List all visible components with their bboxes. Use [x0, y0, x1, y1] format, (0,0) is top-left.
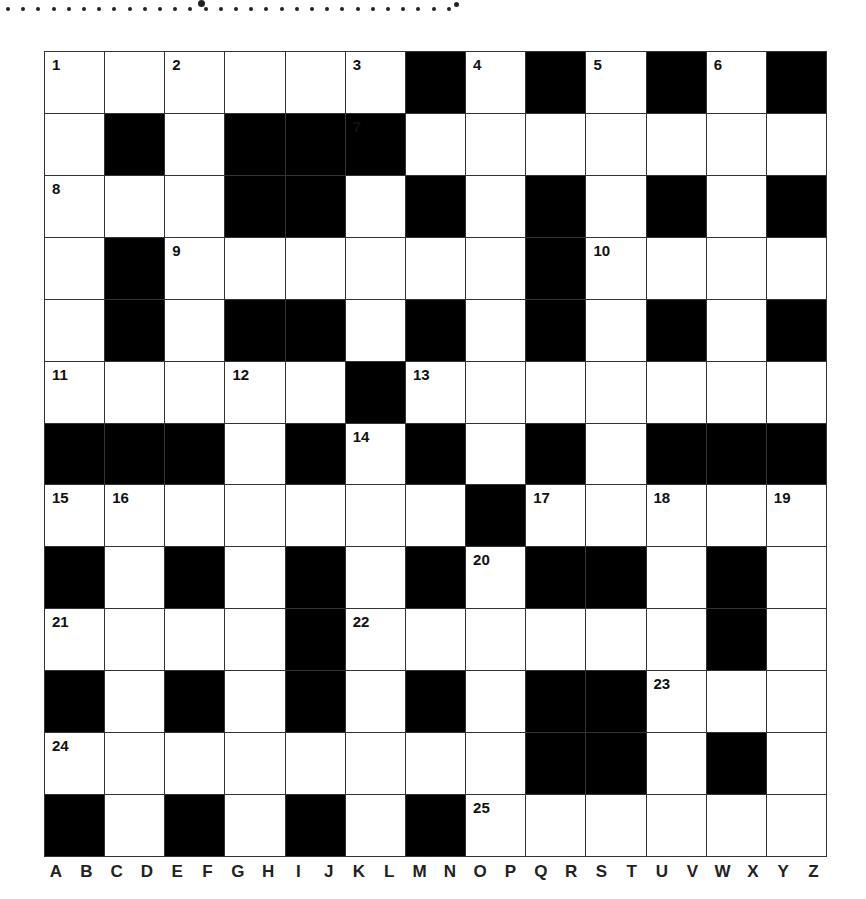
- alphabet-letter[interactable]: J: [319, 862, 339, 882]
- answer-cell[interactable]: 15: [45, 485, 104, 546]
- alphabet-letter[interactable]: M: [410, 862, 430, 882]
- answer-cell[interactable]: [105, 362, 164, 423]
- answer-cell[interactable]: [406, 609, 465, 670]
- answer-cell[interactable]: 8: [45, 176, 104, 237]
- answer-cell[interactable]: [767, 362, 826, 423]
- answer-cell[interactable]: [225, 238, 284, 299]
- answer-cell[interactable]: [526, 609, 585, 670]
- answer-cell[interactable]: [707, 114, 766, 175]
- answer-cell[interactable]: 10: [586, 238, 645, 299]
- answer-cell[interactable]: [165, 176, 224, 237]
- alphabet-letter[interactable]: X: [743, 862, 763, 882]
- answer-cell[interactable]: 1: [45, 52, 104, 113]
- answer-cell[interactable]: [707, 300, 766, 361]
- answer-cell[interactable]: 18: [647, 485, 706, 546]
- answer-cell[interactable]: [286, 362, 345, 423]
- answer-cell[interactable]: [466, 424, 525, 485]
- answer-cell[interactable]: [767, 795, 826, 856]
- answer-cell[interactable]: [165, 733, 224, 794]
- answer-cell[interactable]: [647, 795, 706, 856]
- answer-cell[interactable]: [225, 424, 284, 485]
- answer-cell[interactable]: [466, 733, 525, 794]
- alphabet-letter[interactable]: I: [288, 862, 308, 882]
- answer-cell[interactable]: [707, 238, 766, 299]
- answer-cell[interactable]: [767, 609, 826, 670]
- answer-cell[interactable]: [466, 362, 525, 423]
- answer-cell[interactable]: [346, 547, 405, 608]
- answer-cell[interactable]: [406, 114, 465, 175]
- alphabet-letter[interactable]: W: [713, 862, 733, 882]
- answer-cell[interactable]: [586, 114, 645, 175]
- answer-cell[interactable]: [406, 485, 465, 546]
- answer-cell[interactable]: [225, 485, 284, 546]
- answer-cell[interactable]: [346, 733, 405, 794]
- answer-cell[interactable]: 6: [707, 52, 766, 113]
- answer-cell[interactable]: 20: [466, 547, 525, 608]
- alphabet-letter[interactable]: E: [167, 862, 187, 882]
- alphabet-letter[interactable]: K: [349, 862, 369, 882]
- alphabet-letter[interactable]: Z: [804, 862, 824, 882]
- alphabet-letter[interactable]: U: [652, 862, 672, 882]
- answer-cell[interactable]: [165, 485, 224, 546]
- answer-cell[interactable]: [647, 238, 706, 299]
- answer-cell[interactable]: 21: [45, 609, 104, 670]
- answer-cell[interactable]: [105, 176, 164, 237]
- answer-cell[interactable]: [105, 733, 164, 794]
- answer-cell[interactable]: [586, 609, 645, 670]
- answer-cell[interactable]: [767, 733, 826, 794]
- answer-cell[interactable]: 5: [586, 52, 645, 113]
- alphabet-letter[interactable]: C: [107, 862, 127, 882]
- alphabet-letter[interactable]: R: [561, 862, 581, 882]
- answer-cell[interactable]: [406, 733, 465, 794]
- answer-cell[interactable]: [406, 238, 465, 299]
- answer-cell[interactable]: [586, 795, 645, 856]
- answer-cell[interactable]: [225, 609, 284, 670]
- answer-cell[interactable]: [586, 485, 645, 546]
- answer-cell[interactable]: [586, 362, 645, 423]
- answer-cell[interactable]: [286, 52, 345, 113]
- answer-cell[interactable]: [105, 795, 164, 856]
- answer-cell[interactable]: 9: [165, 238, 224, 299]
- answer-cell[interactable]: [707, 485, 766, 546]
- alphabet-letter[interactable]: H: [258, 862, 278, 882]
- answer-cell[interactable]: [767, 547, 826, 608]
- answer-cell[interactable]: [165, 609, 224, 670]
- answer-cell[interactable]: [466, 671, 525, 732]
- answer-cell[interactable]: [346, 485, 405, 546]
- answer-cell[interactable]: [225, 795, 284, 856]
- answer-cell[interactable]: [586, 300, 645, 361]
- answer-cell[interactable]: [466, 300, 525, 361]
- alphabet-letter[interactable]: Q: [531, 862, 551, 882]
- answer-cell[interactable]: 17: [526, 485, 585, 546]
- answer-cell[interactable]: [225, 547, 284, 608]
- answer-cell[interactable]: [526, 795, 585, 856]
- answer-cell[interactable]: 13: [406, 362, 465, 423]
- alphabet-letter[interactable]: A: [46, 862, 66, 882]
- answer-cell[interactable]: 19: [767, 485, 826, 546]
- alphabet-letter[interactable]: D: [137, 862, 157, 882]
- answer-cell[interactable]: [767, 238, 826, 299]
- answer-cell[interactable]: 22: [346, 609, 405, 670]
- answer-cell[interactable]: [105, 52, 164, 113]
- alphabet-letter[interactable]: L: [379, 862, 399, 882]
- answer-cell[interactable]: [466, 114, 525, 175]
- answer-cell[interactable]: [105, 609, 164, 670]
- answer-cell[interactable]: 12: [225, 362, 284, 423]
- answer-cell[interactable]: 2: [165, 52, 224, 113]
- answer-cell[interactable]: [647, 547, 706, 608]
- answer-cell[interactable]: [586, 424, 645, 485]
- answer-cell[interactable]: [707, 362, 766, 423]
- answer-cell[interactable]: [346, 176, 405, 237]
- answer-cell[interactable]: [286, 485, 345, 546]
- answer-cell[interactable]: [346, 671, 405, 732]
- answer-cell[interactable]: 24: [45, 733, 104, 794]
- alphabet-letter[interactable]: G: [228, 862, 248, 882]
- answer-cell[interactable]: [225, 671, 284, 732]
- answer-cell[interactable]: [105, 671, 164, 732]
- answer-cell[interactable]: [707, 176, 766, 237]
- answer-cell[interactable]: [165, 362, 224, 423]
- answer-cell[interactable]: [165, 114, 224, 175]
- answer-cell[interactable]: [346, 795, 405, 856]
- answer-cell[interactable]: 23: [647, 671, 706, 732]
- alphabet-letter[interactable]: V: [682, 862, 702, 882]
